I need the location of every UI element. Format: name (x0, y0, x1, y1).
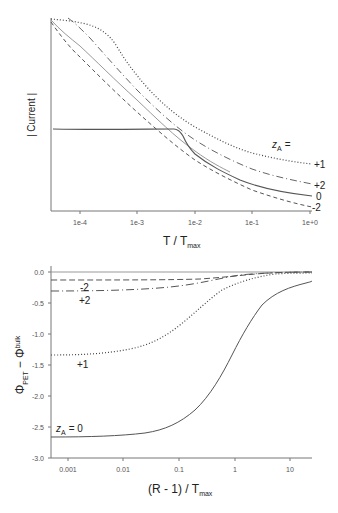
curve-plus1-dotted (51, 273, 312, 355)
curve-label-minus2: -2 (312, 202, 321, 213)
curve-label-minus2: -2 (80, 282, 89, 293)
top-x-tick-label: 1e+0 (302, 219, 318, 226)
top-x-axis-title: T / Tmax (163, 234, 201, 249)
curve-label-plus1: +1 (77, 359, 89, 370)
bottom-y-tick-label: -1.5 (32, 362, 44, 369)
curve-minus2-dashed (51, 22, 312, 207)
bottom-y-tick-label: -2.5 (32, 424, 44, 431)
bottom-x-tick-label: 10 (286, 466, 294, 473)
bottom-x-tick-label: 1 (233, 466, 237, 473)
bottom-x-tick-label: 0.01 (116, 466, 130, 473)
figure: 1e-4 1e-3 1e-2 1e-1 1e+0 T / Tmax | Curr… (0, 0, 338, 513)
legend-title: zA= (271, 139, 291, 152)
bottom-y-tick-label: -1.0 (32, 331, 44, 338)
bottom-x-tick-label: 0.001 (59, 466, 77, 473)
bottom-x-tick-label: 0.1 (174, 466, 184, 473)
bottom-y-axis-title: ΦPET−Φbulk (13, 335, 29, 394)
bottom-chart: 0.0 -0.5 -1.0 -1.5 -2.0 -2.5 -3.0 0.001 … (13, 266, 312, 497)
curve-plus2-dashdot (68, 18, 312, 184)
bottom-y-tick-label: 0.0 (34, 269, 44, 276)
top-y-axis-title: | Current | (26, 93, 37, 137)
curve-label-plus2: +2 (314, 180, 326, 191)
curve-zero-light (51, 20, 230, 172)
top-x-tick-label: 1e-4 (73, 219, 87, 226)
bottom-y-tick-label: -0.5 (32, 300, 44, 307)
curve-minus2-dashed (51, 272, 312, 280)
top-x-tick-label: 1e-2 (188, 219, 202, 226)
bottom-x-axis-title: (R - 1) / Tmax (148, 482, 213, 497)
bottom-y-tick-label: -2.0 (32, 393, 44, 400)
curve-label-zero: 0 (316, 191, 322, 202)
top-x-tick-label: 1e-3 (130, 219, 144, 226)
bottom-y-tick-label: -3.0 (32, 455, 44, 462)
top-x-tick-label: 1e-1 (245, 219, 259, 226)
curve-label-plus2: +2 (79, 295, 91, 306)
curve-label-plus1: +1 (314, 159, 326, 170)
top-chart: 1e-4 1e-3 1e-2 1e-1 1e+0 T / Tmax | Curr… (26, 18, 326, 249)
annotation-za-zero: zA= 0 (55, 423, 83, 436)
